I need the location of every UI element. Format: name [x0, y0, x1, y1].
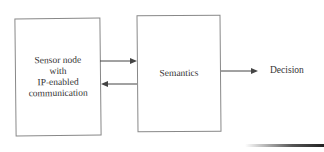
- page-edge-bar: [245, 144, 324, 147]
- arrow-semantics-to-sensor: [101, 81, 137, 87]
- arrow-semantics-to-decision: [221, 68, 258, 74]
- arrows-layer: [0, 0, 324, 152]
- arrow-sensor-to-semantics: [100, 58, 137, 64]
